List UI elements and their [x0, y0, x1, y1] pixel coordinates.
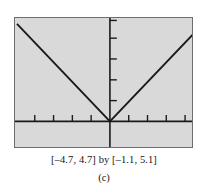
caption-block: [–4.7, 4.7] by [–1.1, 5.1] (c)	[0, 152, 208, 185]
graph-svg	[15, 18, 192, 147]
viewing-window-caption: [–4.7, 4.7] by [–1.1, 5.1]	[0, 152, 208, 167]
x-axis-ticks-negative	[35, 115, 91, 121]
figure-panel-c: [–4.7, 4.7] by [–1.1, 5.1] (c)	[0, 0, 208, 192]
y-axis-ticks-positive	[110, 20, 117, 100]
graph-plot-area	[14, 17, 193, 148]
x-axis-ticks-positive	[129, 115, 185, 121]
absolute-value-curve	[17, 24, 192, 121]
panel-label: (c)	[0, 170, 208, 185]
